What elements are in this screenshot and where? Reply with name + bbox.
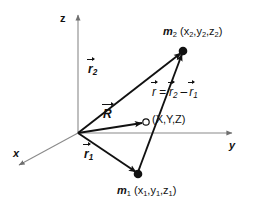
vector-diagram: z y x r2 r1 R r=r2–r1 m2 (x2,y2,z2) m1 (… [0, 0, 254, 204]
mass-2-label: m2 (x2,y2,z2) [163, 26, 222, 38]
vector-arrow-accent: r [152, 86, 156, 98]
vector-equation: r=r2–r1 [152, 86, 198, 100]
y-axis-label: y [229, 140, 235, 151]
vector-arrow-accent: r [189, 86, 193, 98]
x-axis-line [19, 133, 78, 165]
mass-2-dot [179, 47, 188, 56]
equation-term2-subscript: 1 [193, 91, 198, 100]
vector-arrow-accent: r [169, 86, 173, 98]
vector-R-label: R [103, 108, 112, 120]
mass-1-label: m1 (x1,y1,z1) [117, 185, 176, 197]
coord-z-sub: 2 [215, 30, 219, 39]
equation-minus: – [181, 85, 188, 99]
coord-y-sub: 2 [202, 30, 206, 39]
coord-z-sub: 1 [169, 189, 173, 198]
mass-2-symbol: m [163, 25, 173, 37]
mass-1-subscript: 1 [127, 189, 131, 198]
vector-r2-subscript: 2 [93, 68, 98, 77]
field-point-label: (X,Y,Z) [152, 114, 185, 125]
equation-term1-subscript: 2 [173, 91, 178, 100]
vector-r1-subscript: 1 [89, 153, 94, 162]
mass-2-subscript: 2 [173, 30, 177, 39]
coord-x-sub: 1 [143, 189, 147, 198]
mass-2-coords: (x2,y2,z2) [180, 25, 222, 37]
vector-r1-label: r1 [84, 148, 93, 162]
vector-arrow-accent: r [88, 63, 93, 75]
x-axis-label: x [13, 148, 19, 159]
vector-r2-label: r2 [88, 63, 97, 77]
mass-1-symbol: m [117, 184, 127, 196]
vector-arrow-accent: r [84, 148, 89, 160]
equation-equals: = [159, 85, 166, 99]
field-point-dot [143, 119, 149, 125]
coord-y-sub: 1 [156, 189, 160, 198]
mass-1-dot [134, 170, 143, 179]
coord-x-sub: 2 [189, 30, 193, 39]
vector-arrow-accent: R [103, 108, 112, 120]
z-axis-label: z [60, 13, 66, 24]
mass-1-coords: (x1,y1,z1) [134, 184, 176, 196]
